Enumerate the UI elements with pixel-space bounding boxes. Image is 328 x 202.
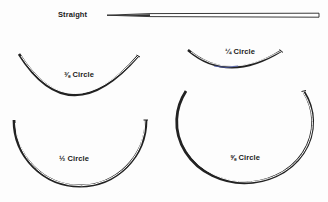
straight-needle-shape	[107, 13, 319, 17]
five-eighths-circle-needle-shape	[177, 91, 313, 183]
three-eighths-circle-label: ⅜ Circle	[64, 70, 94, 79]
needle-drawings	[0, 0, 328, 202]
quarter-circle-label: ¼ Circle	[225, 47, 255, 56]
half-circle-label: ½ Circle	[59, 154, 89, 163]
half-circle-needle-shape	[14, 120, 148, 186]
five-eighths-circle-label: ⅝ Circle	[230, 153, 260, 162]
needle-shapes-diagram: Straight ⅜ Circle ¼ Circle ½ Circle ⅝ Ci…	[0, 0, 328, 202]
straight-label: Straight	[58, 10, 87, 19]
